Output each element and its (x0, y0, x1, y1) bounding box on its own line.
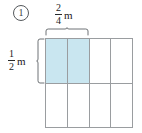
grid-cell (111, 39, 133, 84)
width-fraction: 2 4 (55, 3, 62, 26)
width-dimension-label: 2 4 m (55, 3, 73, 26)
height-unit: m (17, 55, 26, 67)
problem-number-badge: 1 (13, 5, 29, 21)
grid-cell (46, 84, 68, 129)
grid-cell (68, 84, 90, 129)
height-fraction-denominator: 2 (8, 61, 15, 72)
height-fraction: 1 2 (8, 49, 15, 72)
grid-cell (90, 39, 112, 84)
width-fraction-numerator: 2 (55, 3, 62, 15)
width-unit: m (64, 9, 73, 21)
area-grid (45, 38, 133, 128)
grid-cell-shaded (68, 39, 90, 84)
curly-brace-vertical-icon (36, 38, 45, 84)
height-dimension-label: 1 2 m (8, 49, 26, 72)
height-fraction-numerator: 1 (8, 49, 15, 61)
grid-cell-shaded (46, 39, 68, 84)
width-fraction-denominator: 4 (55, 15, 62, 26)
area-model-figure: 1 2 4 m 1 2 m (0, 0, 142, 133)
grid-cell (111, 84, 133, 129)
grid-cell (90, 84, 112, 129)
curly-brace-horizontal-icon (45, 27, 89, 36)
